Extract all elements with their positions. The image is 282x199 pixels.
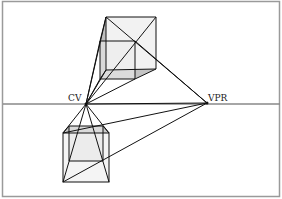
vpr-label: VPR xyxy=(208,93,227,103)
perspective-diagram: CV VPR xyxy=(0,0,282,199)
cv-point xyxy=(85,103,88,106)
diagram-svg xyxy=(0,0,282,199)
top-cube xyxy=(86,17,207,104)
bottom-cube xyxy=(63,126,109,182)
cv-label: CV xyxy=(68,93,81,103)
top-cube-front-face xyxy=(100,41,135,79)
